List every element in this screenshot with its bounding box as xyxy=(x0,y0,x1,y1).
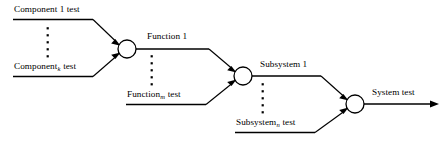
subsystem-ellipsis-dot xyxy=(262,111,264,113)
component-1-connector xyxy=(93,20,116,42)
function-ellipsis-dot xyxy=(151,55,153,57)
component-ellipsis-dot xyxy=(47,34,49,36)
component-ellipsis-dot xyxy=(47,41,49,43)
label-subsystem-n-prefix: Subsystem xyxy=(236,117,276,127)
label-system-prefix: System test xyxy=(372,87,415,97)
component-ellipsis-dot xyxy=(47,55,49,57)
subsystem-1-connector xyxy=(321,76,344,97)
function-m-connector xyxy=(206,84,232,105)
label-subsystem-n-test: Subsystemn test xyxy=(236,117,295,128)
component-ellipsis-dot xyxy=(47,27,49,29)
label-component-1-prefix: Component 1 test xyxy=(14,4,80,14)
component-k-connector xyxy=(93,57,116,77)
label-system-test: System test xyxy=(372,87,415,98)
subsystem-ellipsis-dot xyxy=(262,104,264,106)
label-function-m-prefix: Function xyxy=(127,89,160,99)
label-component-k-test: Componentk test xyxy=(14,61,76,72)
label-subsystem-n-suffix: test xyxy=(280,117,295,127)
label-function-m-test: Functionm test xyxy=(127,89,181,100)
test-integration-diagram: Component 1 test Componentk test Functio… xyxy=(0,0,446,148)
function-ellipsis-dot xyxy=(151,69,153,71)
function-ellipsis-dot xyxy=(151,83,153,85)
function-ellipsis-dot xyxy=(151,76,153,78)
subsystem-junction-node xyxy=(346,95,364,113)
subsystem-ellipsis-dot xyxy=(262,97,264,99)
function-junction-node xyxy=(234,67,252,85)
label-component-k-suffix: test xyxy=(61,61,76,71)
label-component-k-prefix: Component xyxy=(14,61,57,71)
function-ellipsis-dot xyxy=(151,62,153,64)
component-junction-node xyxy=(118,40,136,58)
label-subsystem-1-prefix: Subsystem 1 xyxy=(260,59,307,69)
label-function-1-prefix: Function 1 xyxy=(147,31,187,41)
label-component-k-subscript: k xyxy=(57,65,60,72)
subsystem-n-connector xyxy=(315,112,344,133)
subsystem-ellipsis-dot xyxy=(262,90,264,92)
subsystem-ellipsis-dot xyxy=(262,83,264,85)
component-ellipsis-dot xyxy=(47,48,49,50)
label-component-1-test: Component 1 test xyxy=(14,4,80,15)
label-subsystem-n-subscript: n xyxy=(276,121,280,128)
diagram-canvas xyxy=(0,0,446,148)
label-function-m-subscript: m xyxy=(160,93,165,100)
label-function-m-suffix: test xyxy=(165,89,180,99)
function-1-connector xyxy=(209,49,232,69)
system-test-arrowhead xyxy=(430,101,439,108)
label-subsystem-1: Subsystem 1 xyxy=(260,59,308,70)
label-function-1: Function 1 xyxy=(147,31,188,42)
